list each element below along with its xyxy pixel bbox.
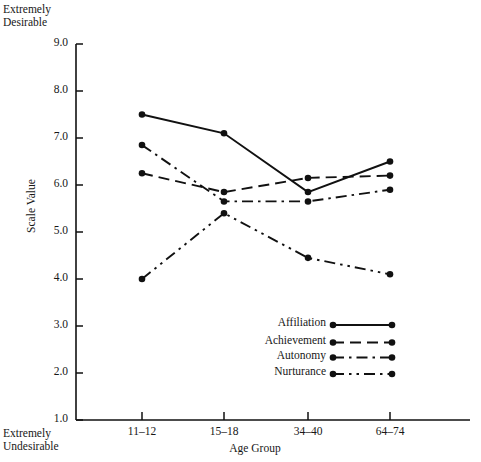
- series-autonomy: [139, 142, 394, 205]
- data-point-marker: [139, 142, 146, 149]
- data-point-marker: [221, 130, 228, 137]
- data-point-marker: [305, 189, 312, 196]
- data-point-marker: [387, 158, 394, 165]
- legend-marker-start: [330, 339, 337, 346]
- data-point-marker: [221, 198, 228, 205]
- data-point-marker: [305, 198, 312, 205]
- series-layer: [139, 111, 394, 282]
- legend-marker-end: [389, 354, 396, 361]
- data-point-marker: [387, 172, 394, 179]
- series-line-nurturance: [142, 213, 390, 279]
- series-line-autonomy: [142, 145, 390, 201]
- legend-marker-end: [389, 339, 396, 346]
- legend-marker-start: [330, 354, 337, 361]
- legend-marker-end: [389, 371, 396, 378]
- data-point-marker: [305, 175, 312, 182]
- data-point-marker: [387, 186, 394, 193]
- series-line-achievement: [142, 173, 390, 192]
- data-point-marker: [387, 271, 394, 278]
- legend-marker-start: [330, 322, 337, 329]
- data-point-marker: [139, 111, 146, 118]
- series-affiliation: [139, 111, 394, 195]
- legend-marker-end: [389, 322, 396, 329]
- series-nurturance: [139, 210, 394, 282]
- chart-container: Extremely Desirable Extremely Undesirabl…: [0, 0, 481, 462]
- data-point-marker: [139, 170, 146, 177]
- data-point-marker: [305, 255, 312, 262]
- series-line-affiliation: [142, 115, 390, 193]
- data-point-marker: [221, 189, 228, 196]
- legend-marker-start: [330, 371, 337, 378]
- data-point-marker: [139, 276, 146, 283]
- data-point-marker: [221, 210, 228, 217]
- legend-layer: [330, 322, 396, 378]
- axes-layer: [76, 44, 470, 420]
- chart-canvas: [0, 0, 481, 462]
